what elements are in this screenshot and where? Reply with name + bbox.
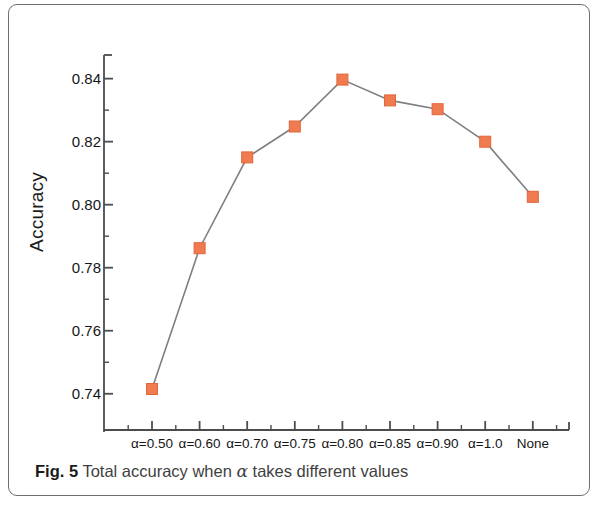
- data-point-marker: [147, 384, 158, 395]
- x-tick-label: α=1.0: [468, 437, 502, 451]
- figure-frame: Accuracy 0.740.760.780.800.820.84 α=0.50…: [8, 4, 590, 496]
- x-tick-label: α=0.90: [417, 437, 459, 451]
- x-tick-label: α=0.80: [321, 437, 363, 451]
- y-tick-label: 0.82: [45, 134, 101, 149]
- x-tick-label: None: [517, 437, 549, 451]
- y-axis-tick-labels: 0.740.760.780.800.820.84: [39, 5, 101, 497]
- y-tick-label: 0.80: [45, 197, 101, 212]
- x-tick-label: α=0.85: [369, 437, 411, 451]
- y-tick-label: 0.74: [45, 386, 101, 401]
- data-point-marker: [194, 243, 205, 254]
- caption-text-start: Total accuracy when: [82, 462, 232, 480]
- data-point-marker: [337, 74, 348, 85]
- caption-alpha-symbol: α: [236, 461, 247, 481]
- y-tick-label: 0.84: [45, 71, 101, 86]
- x-tick-label: α=0.75: [274, 437, 316, 451]
- x-axis-tick-labels: α=0.50α=0.60α=0.70α=0.75α=0.80α=0.85α=0.…: [9, 437, 591, 463]
- data-line: [152, 80, 533, 389]
- y-tick-label: 0.76: [45, 323, 101, 338]
- data-point-marker: [385, 95, 396, 106]
- x-axis-ticks: [128, 421, 556, 430]
- caption-text-end: takes different values: [253, 462, 409, 480]
- axis-lines: [104, 55, 569, 432]
- data-point-marker: [527, 191, 538, 202]
- data-markers: [147, 74, 539, 394]
- data-point-marker: [242, 152, 253, 163]
- y-axis-ticks: [104, 79, 113, 394]
- data-point-marker: [432, 104, 443, 115]
- figure-caption: Fig. 5 Total accuracy when α takes diffe…: [35, 461, 408, 481]
- data-point-marker: [289, 121, 300, 132]
- caption-figure-number: Fig. 5: [35, 462, 78, 480]
- plot-area: Accuracy 0.740.760.780.800.820.84 α=0.50…: [9, 5, 591, 497]
- x-tick-label: α=0.50: [131, 437, 173, 451]
- y-tick-label: 0.78: [45, 260, 101, 275]
- data-point-marker: [480, 136, 491, 147]
- x-tick-label: α=0.70: [226, 437, 268, 451]
- x-tick-label: α=0.60: [179, 437, 221, 451]
